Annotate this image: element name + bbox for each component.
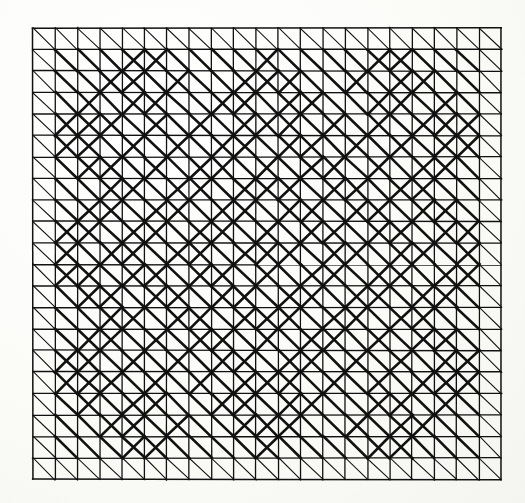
backslash-diagonal: [77, 458, 100, 480]
backslash-diagonal: [256, 200, 279, 222]
backslash-diagonal: [479, 264, 501, 285]
backslash-diagonal: [234, 437, 255, 458]
backslash-diagonal: [412, 350, 434, 372]
backslash-diagonal: [234, 328, 257, 350]
backslash-diagonal: [100, 28, 122, 49]
backslash-diagonal: [479, 200, 502, 222]
backslash-diagonal: [479, 436, 501, 458]
backslash-diagonal: [412, 265, 434, 287]
backslash-diagonal: [457, 200, 479, 221]
backslash-diagonal: [100, 135, 122, 157]
backslash-diagonal: [479, 114, 501, 135]
backslash-diagonal: [390, 372, 412, 394]
backslash-diagonal: [478, 393, 501, 414]
backslash-diagonal: [167, 372, 189, 393]
backslash-diagonal: [301, 50, 323, 71]
backslash-diagonal: [167, 436, 190, 458]
backslash-diagonal: [167, 459, 189, 479]
backslash-diagonal: [434, 179, 457, 201]
backslash-diagonal: [122, 458, 144, 480]
backslash-diagonal: [211, 243, 233, 264]
backslash-diagonal: [278, 157, 300, 178]
backslash-diagonal: [323, 458, 346, 480]
backslash-diagonal: [234, 265, 256, 286]
backslash-diagonal: [189, 394, 211, 415]
backslash-diagonal: [33, 393, 55, 415]
backslash-diagonal: [323, 350, 344, 372]
backslash-diagonal: [145, 71, 167, 92]
backslash-diagonal: [345, 264, 368, 285]
backslash-diagonal: [212, 114, 235, 136]
backslash-diagonal: [55, 436, 77, 458]
backslash-diagonal: [234, 50, 256, 72]
backslash-diagonal: [33, 71, 54, 92]
backslash-diagonal: [33, 264, 55, 286]
backslash-diagonal: [167, 114, 190, 136]
backslash-diagonal: [367, 415, 389, 436]
grid-line-vertical: [412, 28, 413, 479]
backslash-diagonal: [345, 157, 368, 178]
backslash-diagonal: [368, 71, 390, 92]
backslash-diagonal: [77, 28, 100, 49]
backslash-diagonal: [56, 179, 78, 200]
backslash-diagonal: [257, 93, 278, 115]
grid-border-horizontal: [33, 479, 501, 480]
backslash-diagonal: [479, 458, 501, 480]
backslash-diagonal: [389, 200, 412, 222]
grid-line-horizontal: [32, 458, 500, 459]
grid-line-vertical: [278, 28, 279, 480]
backslash-diagonal: [55, 415, 77, 436]
backslash-diagonal: [323, 28, 345, 50]
backslash-diagonal: [301, 308, 324, 329]
backslash-diagonal: [211, 372, 234, 394]
backslash-diagonal: [99, 222, 122, 243]
backslash-diagonal: [33, 415, 56, 437]
backslash-diagonal: [457, 92, 479, 114]
backslash-diagonal: [167, 221, 190, 243]
grid-line-vertical: [345, 28, 346, 479]
backslash-diagonal: [123, 28, 145, 49]
backslash-diagonal: [456, 28, 479, 50]
backslash-diagonal: [33, 436, 55, 457]
backslash-diagonal: [100, 458, 122, 479]
backslash-diagonal: [144, 179, 167, 201]
backslash-diagonal: [167, 157, 189, 179]
backslash-diagonal: [33, 329, 55, 350]
backslash-diagonal: [78, 49, 100, 71]
backslash-diagonal: [55, 308, 78, 330]
backslash-diagonal: [457, 329, 479, 351]
backslash-diagonal: [278, 329, 300, 351]
backslash-diagonal: [211, 71, 233, 93]
backslash-diagonal: [77, 178, 99, 200]
backslash-diagonal: [368, 178, 390, 200]
backslash-diagonal: [212, 28, 234, 49]
backslash-diagonal: [144, 28, 166, 50]
triangulated-grid-figure: [0, 0, 525, 503]
backslash-diagonal: [122, 372, 144, 394]
backslash-diagonal: [32, 50, 54, 71]
backslash-diagonal: [100, 393, 123, 415]
backslash-diagonal: [345, 394, 367, 415]
backslash-diagonal: [479, 157, 502, 179]
backslash-diagonal: [100, 92, 122, 114]
backslash-diagonal: [190, 50, 212, 72]
backslash-diagonal: [234, 28, 256, 49]
backslash-diagonal: [33, 115, 55, 136]
backslash-diagonal: [479, 71, 500, 93]
backslash-diagonal: [301, 372, 323, 394]
backslash-diagonal: [390, 458, 412, 479]
backslash-diagonal: [479, 178, 501, 200]
backslash-diagonal: [55, 157, 78, 179]
backslash-diagonal: [390, 286, 412, 307]
backslash-diagonal: [480, 350, 502, 372]
backslash-diagonal: [33, 307, 55, 329]
backslash-diagonal: [256, 135, 279, 156]
backslash-diagonal: [211, 179, 233, 200]
grid-line-horizontal: [33, 221, 501, 222]
backslash-diagonal: [144, 350, 167, 372]
grid-line-horizontal: [34, 70, 502, 71]
backslash-diagonal: [100, 350, 122, 371]
backslash-diagonal: [211, 436, 234, 457]
backslash-diagonal: [33, 285, 55, 307]
backslash-diagonal: [323, 50, 345, 71]
